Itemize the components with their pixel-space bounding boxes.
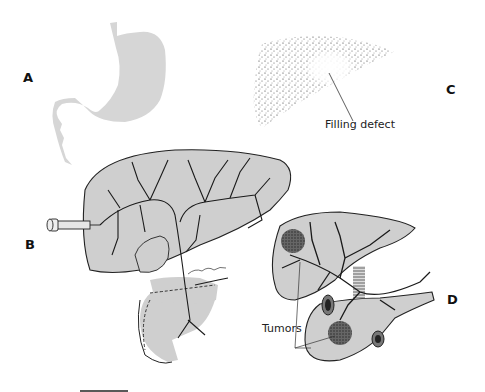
tumors-label: Tumors: [262, 322, 302, 335]
filling-defect-label: Filling defect: [325, 118, 395, 131]
panel-label-b: B: [25, 237, 35, 252]
panel-label-c: C: [446, 82, 456, 97]
illustration-layer: [0, 0, 485, 392]
stomach-illustration: [53, 22, 166, 165]
medical-figure: A B C D Filling defect Tumors: [0, 0, 485, 392]
panel-label-a: A: [23, 70, 33, 85]
panel-label-d: D: [447, 292, 458, 307]
tumor-liver: [281, 229, 305, 253]
pancreas-tumor-illustration: [272, 212, 434, 361]
tumor-pancreas: [328, 321, 352, 345]
liver-biliary-illustration: [47, 150, 291, 363]
liver-scan-illustration: [254, 36, 394, 128]
